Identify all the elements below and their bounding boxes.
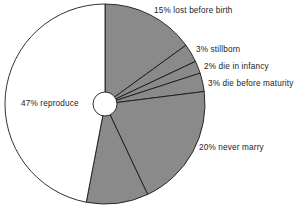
pie-label-never-marry: 20% never marry (199, 143, 264, 153)
pie-center-hole (93, 92, 117, 116)
pie-label-die-before-maturity: 3% die before maturity (208, 79, 294, 89)
pie-label-die-in-infancy: 2% die in infancy (204, 62, 269, 72)
pie-label-stillborn: 3% stillborn (196, 45, 240, 55)
pie-label-lost-before-birth: 15% lost before birth (154, 6, 233, 16)
pie-label-reproduce: 47% reproduce (21, 99, 79, 109)
pie-chart: 15% lost before birth 3% stillborn 2% di… (0, 0, 306, 215)
